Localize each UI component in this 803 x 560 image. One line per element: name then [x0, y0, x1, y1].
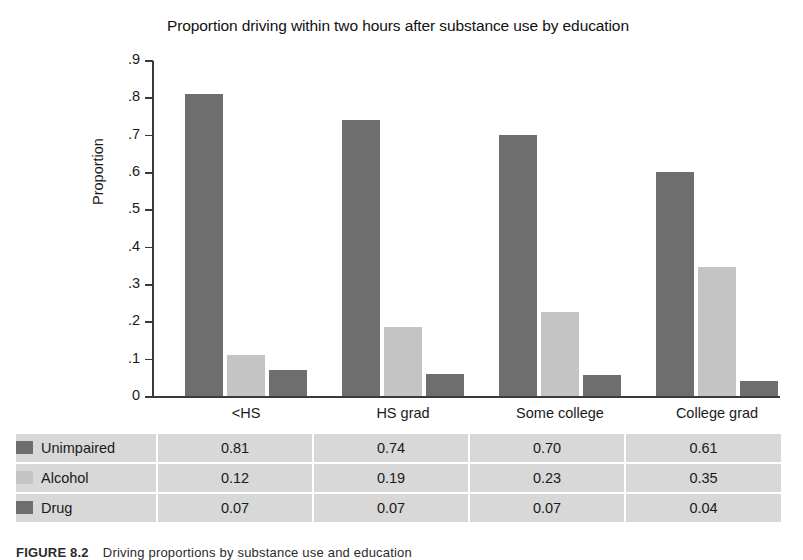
- legend-cell-drug: Drug: [16, 493, 157, 522]
- y-tick-.1: [145, 359, 153, 361]
- bar-drug-1: [426, 374, 464, 396]
- legend-label: Drug: [41, 500, 72, 516]
- legend-label: Alcohol: [41, 470, 89, 486]
- table-cell-r1-c1: 0.19: [313, 463, 469, 493]
- caption-number: FIGURE 8.2: [16, 545, 89, 560]
- bar-alcohol-3: [698, 267, 736, 396]
- bar-alcohol-2: [541, 312, 579, 396]
- y-tick-label-.2: .2: [114, 312, 140, 328]
- legend-swatch-icon: [16, 471, 33, 484]
- x-category-label-3: College grad: [637, 405, 797, 421]
- plot-area: .9.8.7.6.5.4.3.2.10 Proportion <HSHS gra…: [152, 55, 782, 403]
- y-tick-.5: [145, 209, 153, 211]
- y-tick-label-.4: .4: [114, 238, 140, 254]
- legend-cell-alcohol: Alcohol: [16, 463, 157, 493]
- legend-label: Unimpaired: [41, 440, 115, 456]
- y-tick-0: [145, 396, 153, 398]
- bar-alcohol-1: [384, 327, 422, 396]
- caption-text: Driving proportions by substance use and…: [103, 545, 412, 560]
- bar-unimpaired-3: [656, 172, 694, 396]
- y-tick-label-.5: .5: [114, 200, 140, 216]
- table-cell-r2-c0: 0.07: [157, 493, 313, 522]
- bar-unimpaired-0: [185, 94, 223, 396]
- table-row: Alcohol0.120.190.230.35: [16, 463, 781, 493]
- bar-drug-3: [740, 381, 778, 396]
- x-category-label-2: Some college: [480, 405, 640, 421]
- legend-swatch-icon: [16, 441, 33, 454]
- bar-unimpaired-1: [342, 120, 380, 396]
- x-category-label-0: <HS: [166, 405, 326, 421]
- table-row: Drug0.070.070.070.04: [16, 493, 781, 522]
- bar-drug-2: [583, 375, 621, 396]
- bar-unimpaired-2: [499, 135, 537, 396]
- y-tick-label-.3: .3: [114, 275, 140, 291]
- y-tick-label-.7: .7: [114, 126, 140, 142]
- y-tick-label-.1: .1: [114, 350, 140, 366]
- y-tick-.4: [145, 247, 153, 249]
- chart-title: Proportion driving within two hours afte…: [167, 17, 629, 35]
- table-cell-r0-c1: 0.74: [313, 434, 469, 463]
- y-tick-.3: [145, 284, 153, 286]
- y-axis-line: [152, 61, 154, 397]
- y-tick-.2: [145, 321, 153, 323]
- y-tick-label-.6: .6: [114, 163, 140, 179]
- y-tick-label-.8: .8: [114, 88, 140, 104]
- x-axis-line: [152, 396, 780, 398]
- y-tick-.7: [145, 135, 153, 137]
- table-cell-r2-c1: 0.07: [313, 493, 469, 522]
- table-body: Unimpaired0.810.740.700.61Alcohol0.120.1…: [16, 434, 781, 522]
- data-table: Unimpaired0.810.740.700.61Alcohol0.120.1…: [16, 434, 781, 522]
- bar-drug-0: [269, 370, 307, 396]
- table-row: Unimpaired0.810.740.700.61: [16, 434, 781, 463]
- y-tick-.6: [145, 172, 153, 174]
- table-cell-r0-c3: 0.61: [625, 434, 781, 463]
- x-category-label-1: HS grad: [323, 405, 483, 421]
- y-tick-label-.9: .9: [114, 51, 140, 67]
- bar-alcohol-0: [227, 355, 265, 396]
- y-tick-label-0: 0: [114, 387, 140, 403]
- legend-swatch-icon: [16, 501, 33, 514]
- legend-cell-unimpaired: Unimpaired: [16, 434, 157, 463]
- table-cell-r1-c2: 0.23: [469, 463, 625, 493]
- y-axis-label: Proportion: [90, 138, 106, 205]
- table-cell-r0-c2: 0.70: [469, 434, 625, 463]
- table-cell-r0-c0: 0.81: [157, 434, 313, 463]
- table-cell-r1-c0: 0.12: [157, 463, 313, 493]
- table-cell-r2-c2: 0.07: [469, 493, 625, 522]
- figure-caption: FIGURE 8.2Driving proportions by substan…: [16, 545, 786, 560]
- table-cell-r2-c3: 0.04: [625, 493, 781, 522]
- y-tick-.9: [145, 60, 153, 62]
- y-tick-.8: [145, 97, 153, 99]
- table-cell-r1-c3: 0.35: [625, 463, 781, 493]
